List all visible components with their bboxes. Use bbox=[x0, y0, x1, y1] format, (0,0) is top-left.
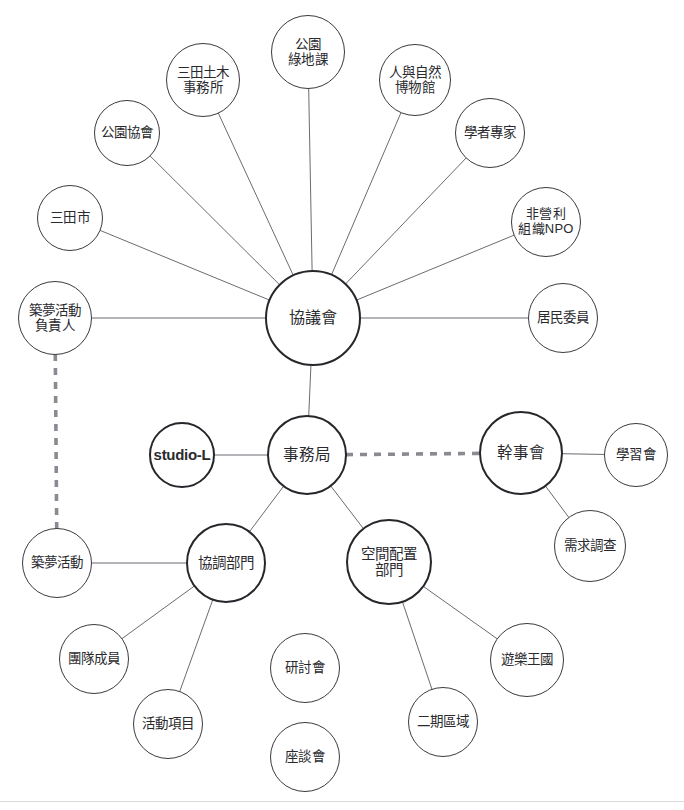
node-label-sanda-doboku: 三田土木 事務所 bbox=[175, 65, 232, 95]
node-label-sanda-shi: 三田市 bbox=[48, 210, 92, 225]
node-kyougikai[interactable]: 協議會 bbox=[265, 270, 361, 366]
node-label-juyou-chousa: 需求調查 bbox=[562, 538, 619, 553]
node-label-gakusha-senka: 學者專家 bbox=[462, 125, 519, 140]
node-label-gakushukai: 學習會 bbox=[614, 447, 658, 462]
edge-kuukan-haichi-bumon-to-yuuraku-oukoku bbox=[423, 586, 497, 639]
edge-kouen-kyoukai-to-kyougikai bbox=[150, 156, 280, 285]
node-jumin-iin[interactable]: 居民委員 bbox=[528, 283, 598, 353]
node-label-zadankai: 座談會 bbox=[283, 749, 327, 764]
node-label-kyougikai: 協議會 bbox=[287, 309, 340, 327]
node-kuukan-haichi-bumon[interactable]: 空間配置 部門 bbox=[346, 519, 432, 605]
edge-gakusha-senka-to-kyougikai bbox=[345, 158, 466, 284]
node-label-jumin-iin: 居民委員 bbox=[535, 310, 592, 325]
node-dantai-seiin[interactable]: 團隊成員 bbox=[59, 624, 129, 694]
node-kanjikai[interactable]: 幹事會 bbox=[479, 411, 563, 495]
node-gakushukai[interactable]: 學習會 bbox=[604, 423, 668, 487]
edge-kouen-ryokuchi-to-kyougikai bbox=[309, 88, 312, 271]
node-label-kouen-ryokuchi: 公園 綠地課 bbox=[286, 37, 330, 67]
edge-kanjikai-to-gakushukai bbox=[562, 454, 605, 455]
node-katsudou-koumoku[interactable]: 活動項目 bbox=[133, 689, 203, 759]
node-label-katsudou-koumoku: 活動項目 bbox=[140, 716, 197, 731]
edge-sanda-doboku-to-kyougikai bbox=[218, 113, 293, 276]
node-label-kyouchou-bumon: 協調部門 bbox=[196, 555, 257, 571]
network-diagram: 公園 綠地課三田土木 事務所人與自然 博物館公園協會學者專家三田市非營利 組織N… bbox=[0, 0, 684, 810]
node-kyouchou-bumon[interactable]: 協調部門 bbox=[186, 523, 266, 603]
node-zadankai[interactable]: 座談會 bbox=[270, 722, 340, 792]
node-hito-shizen-hakubutsukan[interactable]: 人與自然 博物館 bbox=[379, 44, 451, 116]
node-sanda-doboku[interactable]: 三田土木 事務所 bbox=[166, 43, 240, 117]
node-studio-l[interactable]: studio-L bbox=[149, 422, 215, 488]
edge-kanjikai-to-juyou-chousa bbox=[545, 486, 569, 518]
node-label-studio-l: studio-L bbox=[152, 447, 213, 464]
edge-jimukyoku-to-kuukan-haichi-bumon bbox=[331, 486, 364, 529]
node-label-yuuraku-oukoku: 遊樂王國 bbox=[499, 652, 556, 667]
edge-kyouchou-bumon-to-katsudou-koumoku bbox=[180, 600, 213, 692]
edge-jimukyoku-to-kanjikai bbox=[346, 453, 480, 454]
edge-hito-shizen-hakubutsukan-to-kyougikai bbox=[332, 112, 402, 275]
node-npo[interactable]: 非營利 組織NPO bbox=[511, 187, 581, 257]
footer-divider bbox=[0, 801, 684, 802]
node-label-jimukyoku: 事務局 bbox=[281, 446, 334, 463]
node-yumezukuri-katsudou[interactable]: 築夢活動 bbox=[22, 528, 92, 598]
edge-jimukyoku-to-kyouchou-bumon bbox=[249, 486, 283, 532]
edge-kyougikai-to-jimukyoku bbox=[309, 365, 311, 416]
node-label-kentoukai: 研討會 bbox=[283, 660, 327, 675]
node-label-kouen-kyoukai: 公園協會 bbox=[99, 125, 156, 140]
node-kouen-kyoukai[interactable]: 公園協會 bbox=[94, 100, 160, 166]
node-label-kanjikai: 幹事會 bbox=[495, 444, 548, 461]
node-juyou-chousa[interactable]: 需求調查 bbox=[554, 510, 626, 582]
node-label-yumezukuri-katsudou: 築夢活動 bbox=[29, 555, 86, 570]
node-jimukyoku[interactable]: 事務局 bbox=[267, 415, 347, 495]
node-label-hito-shizen-hakubutsukan: 人與自然 博物館 bbox=[387, 65, 444, 95]
node-label-dantai-seiin: 團隊成員 bbox=[66, 651, 123, 666]
node-niki-kuiki[interactable]: 二期區域 bbox=[408, 687, 478, 757]
node-sanda-shi[interactable]: 三田市 bbox=[37, 185, 103, 251]
edge-npo-to-kyougikai bbox=[356, 235, 514, 300]
edge-kuukan-haichi-bumon-to-niki-kuiki bbox=[402, 602, 432, 690]
node-yuuraku-oukoku[interactable]: 遊樂王國 bbox=[490, 623, 564, 697]
node-label-niki-kuiki: 二期區域 bbox=[415, 714, 472, 729]
edge-yumezukuri-sekininsha-to-yumezukuri-katsudou bbox=[55, 354, 56, 529]
node-label-yumezukuri-sekininsha: 築夢活動 負責人 bbox=[27, 303, 84, 333]
node-kentoukai[interactable]: 研討會 bbox=[270, 633, 340, 703]
node-yumezukuri-sekininsha[interactable]: 築夢活動 負責人 bbox=[18, 281, 92, 355]
node-kouen-ryokuchi[interactable]: 公園 綠地課 bbox=[271, 15, 345, 89]
edge-sanda-shi-to-kyougikai bbox=[100, 230, 270, 300]
node-label-kuukan-haichi-bumon: 空間配置 部門 bbox=[359, 546, 420, 578]
node-label-npo: 非營利 組織NPO bbox=[516, 207, 575, 236]
node-gakusha-senka[interactable]: 學者專家 bbox=[455, 98, 525, 168]
edge-kyouchou-bumon-to-dantai-seiin bbox=[121, 586, 194, 639]
